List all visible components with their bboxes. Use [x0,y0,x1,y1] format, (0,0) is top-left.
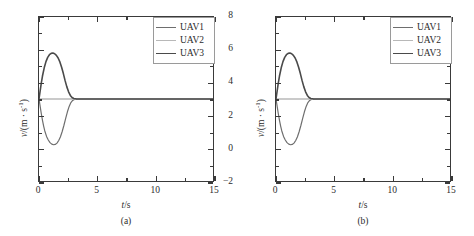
x-axis-title-a: t/s [38,200,214,210]
legend-label: UAV2 [417,36,441,46]
y-axis-minor-tick [210,133,213,134]
y-axis-minor-tick [276,99,279,100]
legend-label: UAV3 [417,49,441,59]
x-axis-tick [214,176,215,181]
x-axis-tick-label: 15 [439,186,463,196]
series-line-uav1 [39,99,213,145]
x-axis-minor-tick [68,178,69,181]
y-axis-tick [445,149,450,150]
y-axis-tick-label: −2 [223,177,233,187]
y-axis-tick [39,16,44,17]
x-axis-tick-label: 5 [322,186,346,196]
legend: UAV1UAV2UAV3 [153,17,215,64]
plot-area-b: UAV1UAV2UAV3 [275,16,451,182]
x-axis-minor-tick [126,17,127,20]
x-axis-tick-label: 15 [202,186,226,196]
x-axis-minor-tick [363,17,364,20]
y-axis-minor-tick [210,166,213,167]
y-axis-title-a: v/(m · s-1) [17,99,29,137]
x-axis-tick [156,176,157,181]
x-axis-tick-label: 0 [263,186,287,196]
x-axis-minor-tick [363,178,364,181]
x-axis-minor-tick [305,17,306,20]
x-axis-tick-label: 10 [380,186,404,196]
legend-item-uav2[interactable]: UAV2 [393,34,448,47]
x-axis-title-b: t/s [275,200,451,210]
plot-area-a: UAV1UAV2UAV3 [38,16,214,182]
y-axis-tick-label: 8 [228,11,233,21]
x-axis-minor-tick [185,178,186,181]
y-axis-minor-tick [39,166,42,167]
x-axis-tick [334,17,335,22]
legend: UAV1UAV2UAV3 [390,17,452,64]
x-axis-tick [38,17,39,22]
y-axis-minor-tick [276,33,279,34]
legend-item-uav3[interactable]: UAV3 [393,47,448,60]
series-line-uav1 [276,99,450,145]
y-axis-tick [276,16,281,17]
y-axis-tick [445,182,450,183]
x-axis-tick [97,176,98,181]
panel-caption-b: (b) [275,216,451,226]
y-axis-tick [276,116,281,117]
legend-item-uav2[interactable]: UAV2 [156,34,211,47]
legend-swatch-icon [156,53,176,54]
legend-swatch-icon [393,27,413,28]
y-axis-minor-tick [276,66,279,67]
legend-swatch-icon [393,53,413,54]
x-axis-tick [97,17,98,22]
x-axis-tick [451,176,452,181]
y-axis-tick [276,83,281,84]
y-axis-minor-tick [447,99,450,100]
y-axis-tick-label: 2 [228,111,233,121]
y-axis-minor-tick [210,66,213,67]
y-axis-minor-tick [39,99,42,100]
y-axis-tick [39,182,44,183]
legend-swatch-icon [156,27,176,28]
x-axis-tick [334,176,335,181]
y-axis-minor-tick [447,66,450,67]
y-axis-minor-tick [39,33,42,34]
figure-two-panel-velocity-plots: v/(m · s-1) UAV1UAV2UAV3 t/s (a) −202468… [0,0,474,236]
x-axis-tick-label: 10 [143,186,167,196]
y-axis-tick [39,83,44,84]
x-axis-minor-tick [68,17,69,20]
legend-item-uav3[interactable]: UAV3 [156,47,211,60]
x-axis-minor-tick [422,178,423,181]
y-axis-minor-tick [447,133,450,134]
x-axis-tick [393,176,394,181]
x-axis-minor-tick [126,178,127,181]
y-axis-tick-label: 4 [228,77,233,87]
legend-swatch-icon [156,40,176,41]
y-axis-minor-tick [276,133,279,134]
y-axis-minor-tick [276,166,279,167]
x-axis-tick [38,176,39,181]
y-axis-tick [276,182,281,183]
y-axis-tick [208,83,213,84]
legend-label: UAV3 [180,49,204,59]
legend-label: UAV1 [417,23,441,33]
legend-swatch-icon [393,40,413,41]
panel-caption-a: (a) [38,216,214,226]
legend-label: UAV2 [180,36,204,46]
y-axis-tick [276,149,281,150]
y-axis-minor-tick [39,133,42,134]
x-axis-minor-tick [305,178,306,181]
y-axis-tick [208,182,213,183]
panel-b: v/(m · s-1) UAV1UAV2UAV3 t/s (b) −202468… [237,0,474,236]
y-axis-tick [208,149,213,150]
y-axis-tick [39,149,44,150]
x-axis-tick [275,17,276,22]
y-axis-tick-label: 6 [228,44,233,54]
y-axis-minor-tick [210,99,213,100]
y-axis-tick [39,116,44,117]
legend-item-uav1[interactable]: UAV1 [156,21,211,34]
y-axis-minor-tick [447,166,450,167]
x-axis-tick [275,176,276,181]
y-axis-tick-label: 0 [228,144,233,154]
y-axis-minor-tick [39,66,42,67]
legend-item-uav1[interactable]: UAV1 [393,21,448,34]
legend-label: UAV1 [180,23,204,33]
panel-a: v/(m · s-1) UAV1UAV2UAV3 t/s (a) −202468… [0,0,237,236]
y-axis-tick [445,116,450,117]
